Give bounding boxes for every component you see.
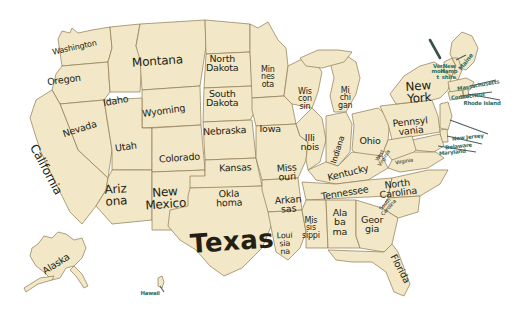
state-label-georgia: Geor gia: [361, 215, 383, 234]
state-label-alabama: Ala ba ma: [333, 208, 348, 236]
state-label-rhode-island: Rhode Island: [464, 101, 501, 106]
state-label-minnesota: Min nes ota: [261, 66, 275, 89]
state-label-north-dakota: North Dakota: [206, 54, 238, 73]
state-label-maine: Maine: [457, 52, 474, 71]
state-label-south-dakota: South Dakota: [206, 89, 238, 108]
state-label-california: California: [27, 143, 63, 197]
state-label-montana: Montana: [131, 54, 183, 69]
state-label-layer: WashingtonOregonIdahoMontanaWyomingNorth…: [0, 0, 518, 326]
state-label-alaska: Alaska: [41, 251, 71, 275]
state-label-new-jersey: New Jersey: [452, 133, 484, 142]
state-label-colorado: Colorado: [158, 151, 199, 163]
state-label-iowa: Iowa: [260, 124, 281, 133]
state-label-louisiana: Loui sia na: [277, 231, 294, 255]
state-label-hawaii: Hawaii: [141, 291, 160, 296]
state-label-texas: Texas: [189, 226, 275, 257]
state-label-maryland: Maryland: [438, 148, 465, 156]
state-label-pennsylvania: Pennsyl vania: [392, 115, 429, 137]
state-label-oklahoma: Okla homa: [216, 188, 243, 207]
state-label-missouri: Miss ouri: [276, 162, 297, 182]
state-label-indiana: Indiana: [330, 135, 346, 164]
state-label-nebraska: Nebraska: [202, 124, 246, 136]
us-states-map: WashingtonOregonIdahoMontanaWyomingNorth…: [0, 0, 518, 326]
state-label-idaho: Idaho: [102, 93, 129, 107]
state-label-washington: Washington: [51, 39, 97, 56]
state-label-new-york: New York: [405, 80, 432, 105]
state-label-arkansas: Arkan sas: [274, 194, 302, 214]
state-label-illinois: Illi nois: [301, 133, 320, 152]
state-label-north-carolina: North Carolina: [378, 176, 417, 199]
state-label-massachusetts: Massachusetts: [456, 79, 499, 92]
state-label-virginia: Virginia: [395, 157, 414, 165]
state-label-west-virginia: West Virginia: [373, 147, 391, 168]
state-label-wisconsin: Wis con sin: [298, 88, 312, 111]
state-label-michigan: Mi chi gan: [338, 87, 352, 110]
state-label-wyoming: Wyoming: [141, 103, 185, 118]
state-label-oregon: Oregon: [47, 72, 82, 86]
state-label-kansas: Kansas: [219, 162, 252, 172]
state-label-tennessee: Tennessee: [321, 184, 370, 201]
state-label-nevada: Nevada: [61, 118, 97, 138]
state-label-utah: Utah: [114, 140, 137, 152]
state-label-florida: Florida: [389, 252, 412, 284]
state-label-new-mexico: New Mexico: [144, 186, 186, 212]
state-label-kentucky: Kentucky: [326, 163, 369, 182]
state-label-mississippi: Mis sis sippi: [302, 217, 320, 240]
state-label-new-hampshire: New Hamp shire: [441, 64, 458, 80]
state-label-arizona: Ariz ona: [104, 183, 128, 208]
state-label-ohio: Ohio: [360, 136, 381, 145]
